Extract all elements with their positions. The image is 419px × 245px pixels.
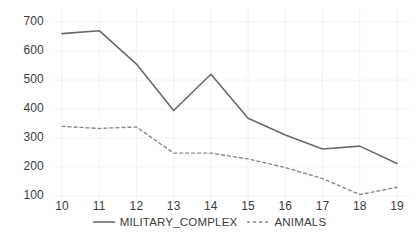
line-chart: 100200300400500600700 101112131415161718… <box>0 0 419 245</box>
y-axis-tick-label: 500 <box>10 72 44 86</box>
y-axis-tick-label: 100 <box>10 188 44 202</box>
series-line-1 <box>62 126 397 194</box>
x-axis-tick-label: 13 <box>161 199 187 213</box>
x-axis-tick-label: 17 <box>310 199 336 213</box>
chart-legend: MILITARY_COMPLEXANIMALS <box>0 216 419 228</box>
legend-item-1[interactable]: ANIMALS <box>247 216 326 228</box>
legend-label: ANIMALS <box>274 216 326 228</box>
x-axis-tick-label: 19 <box>384 199 410 213</box>
y-axis-tick-label: 600 <box>10 43 44 57</box>
y-axis-tick-label: 200 <box>10 159 44 173</box>
legend-item-0[interactable]: MILITARY_COMPLEX <box>93 216 238 228</box>
x-axis-tick-label: 10 <box>49 199 75 213</box>
x-axis-tick-label: 14 <box>198 199 224 213</box>
x-axis-tick-label: 12 <box>123 199 149 213</box>
y-axis-tick-label: 700 <box>10 14 44 28</box>
legend-label: MILITARY_COMPLEX <box>120 216 238 228</box>
x-axis-tick-label: 11 <box>86 199 112 213</box>
x-axis-tick-label: 18 <box>347 199 373 213</box>
series-lines <box>62 31 397 195</box>
x-axis-tick-label: 16 <box>272 199 298 213</box>
y-axis-tick-label: 300 <box>10 130 44 144</box>
legend-swatch-dashed-icon <box>247 218 269 226</box>
x-axis-tick-label: 15 <box>235 199 261 213</box>
y-axis-tick-label: 400 <box>10 101 44 115</box>
legend-swatch-solid-icon <box>93 218 115 226</box>
